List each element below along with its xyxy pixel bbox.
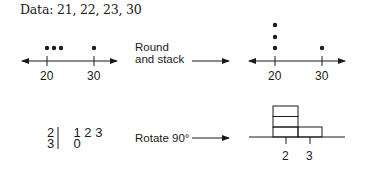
diagram-graphics: 20 30 20 30 2 3: [0, 0, 365, 170]
tick-label-30: 30: [315, 69, 329, 83]
box: [273, 106, 298, 117]
tick-label-2: 2: [282, 149, 289, 163]
dot: [320, 46, 324, 50]
dot-21: [45, 46, 49, 50]
dot-30: [92, 46, 96, 50]
dot: [273, 35, 277, 39]
tick-label-20: 20: [40, 69, 54, 83]
dot-plot-raw: 20 30: [22, 46, 117, 83]
tick-label-3: 3: [306, 149, 313, 163]
dot-plot-stacked: 20 30: [249, 23, 345, 83]
dot-22: [52, 46, 56, 50]
box: [298, 127, 322, 137]
tick-label-20: 20: [268, 69, 282, 83]
box: [273, 127, 298, 137]
dot: [273, 23, 277, 27]
dot: [273, 46, 277, 50]
tick-label-30: 30: [87, 69, 101, 83]
box: [273, 117, 298, 128]
dot-23: [59, 46, 63, 50]
histogram: 2 3: [249, 106, 345, 163]
